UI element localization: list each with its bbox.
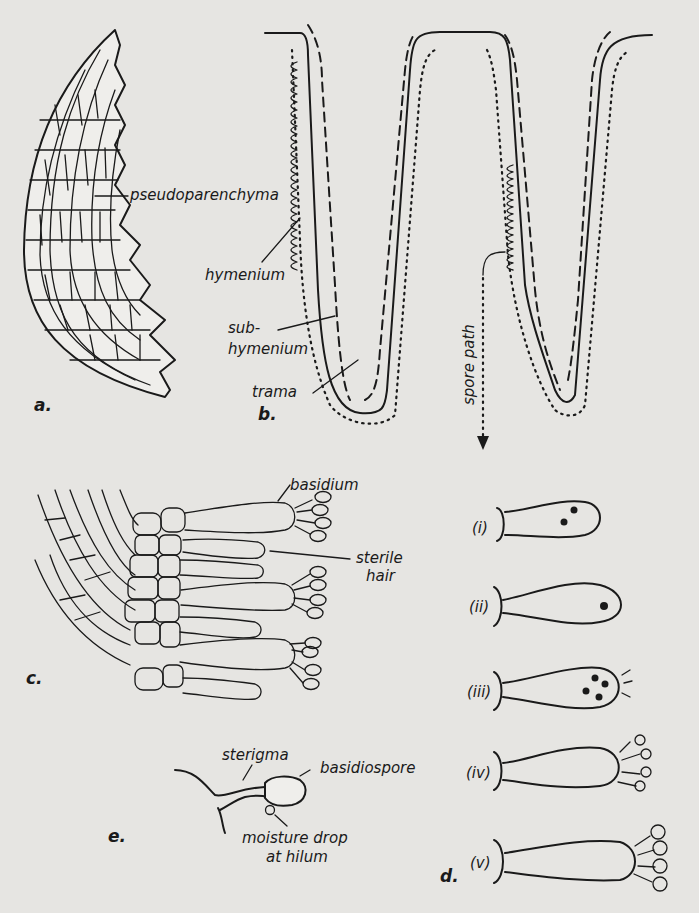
stage-iv-label: (iv) <box>466 764 491 782</box>
subhymenium-callout-line2: hymenium <box>228 340 308 358</box>
spore-path-arrowhead <box>477 436 489 450</box>
stage-iii-basidium: (iii) <box>467 668 632 710</box>
sterile-hair-callout-line2: hair <box>366 567 396 585</box>
stage-ii-basidium: (ii) <box>469 583 621 626</box>
stage-i-basidium: (i) <box>472 501 600 541</box>
panel-b-gill-section: spore path hymenium sub- hymenium trama … <box>205 25 652 450</box>
stage-iv-basidium: (iv) <box>466 735 651 791</box>
sterigma-leader-line <box>243 765 252 780</box>
sterile-hair-callout-line1: sterile <box>356 549 403 567</box>
panel-c-label: c. <box>26 668 43 688</box>
sterigma-callout: sterigma <box>222 746 289 764</box>
stage-v-label: (v) <box>470 854 491 872</box>
panel-c-hymenium-detail: basidium sterile hair c. <box>26 476 403 699</box>
stage-ii-label: (ii) <box>469 598 489 616</box>
basidium-callout: basidium <box>290 476 359 494</box>
spore-path-callout: spore path <box>460 324 478 405</box>
hymenium-callout: hymenium <box>205 266 285 284</box>
spore-path-curve <box>483 252 505 275</box>
stage-i-label: (i) <box>472 519 488 537</box>
basidium-leader-line <box>278 485 290 501</box>
stage-iii-label: (iii) <box>467 683 491 701</box>
subhymenium-callout-line1: sub- <box>228 319 260 337</box>
pseudoparenchyma-callout: pseudoparenchyma <box>129 186 279 204</box>
trama-leader-line <box>313 360 358 393</box>
panel-a-label: a. <box>34 395 52 415</box>
stage-v-basidium: (v) <box>470 825 667 891</box>
panel-d-label: d. <box>440 866 459 886</box>
moisture-drop-icon <box>266 806 275 815</box>
moisture-drop-leader-line <box>275 815 287 826</box>
panel-b-label: b. <box>258 404 277 424</box>
sterile-hair-leader-line <box>270 551 350 559</box>
panel-e-label: e. <box>108 826 126 846</box>
panel-d-basidium-stages: (i) (ii) (iii) (iv) <box>440 501 667 891</box>
trama-callout: trama <box>252 383 297 401</box>
moisture-drop-callout-line1: moisture drop <box>242 829 348 847</box>
basidiospore-callout: basidiospore <box>320 759 415 777</box>
moisture-drop-callout-line2: at hilum <box>266 848 328 866</box>
fungal-hymenium-figure: a. pseudoparenchyma spore path hymenium … <box>0 0 699 913</box>
basidiospore-leader-line <box>300 770 310 776</box>
panel-e-basidiospore: sterigma basidiospore moisture drop at h… <box>108 746 415 866</box>
